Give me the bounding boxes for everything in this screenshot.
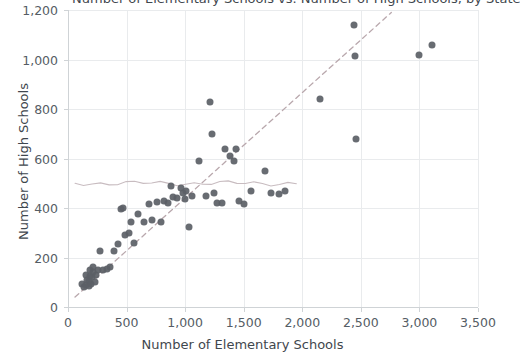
- gridline-vertical: [361, 10, 362, 307]
- data-point: [209, 130, 216, 137]
- data-point: [196, 158, 203, 165]
- data-point: [182, 196, 189, 203]
- x-tick-mark: [361, 308, 362, 312]
- gridline-horizontal: [68, 109, 478, 110]
- y-tick-mark: [64, 208, 68, 209]
- x-tick-mark: [185, 308, 186, 312]
- data-point: [185, 223, 192, 230]
- x-tick-mark: [478, 308, 479, 312]
- y-tick-label: 1,200: [0, 3, 58, 18]
- y-axis-line: [68, 10, 69, 307]
- y-tick-mark: [64, 159, 68, 160]
- y-tick-mark: [64, 258, 68, 259]
- data-point: [240, 201, 247, 208]
- chart-title: Number of Elementary Schools vs. Number …: [72, 0, 520, 6]
- data-point: [222, 145, 229, 152]
- x-tick-label: 0: [64, 315, 72, 330]
- data-point: [141, 218, 148, 225]
- data-point: [247, 187, 254, 194]
- data-point: [281, 187, 288, 194]
- x-tick-mark: [302, 308, 303, 312]
- y-tick-mark: [64, 109, 68, 110]
- y-tick-mark: [64, 10, 68, 11]
- data-point: [120, 205, 127, 212]
- data-point: [231, 158, 238, 165]
- y-tick-label: 200: [0, 250, 58, 265]
- y-tick-label: 1,000: [0, 52, 58, 67]
- x-tick-label: 2,500: [343, 315, 379, 330]
- gridline-horizontal: [68, 159, 478, 160]
- x-tick-label: 2,000: [284, 315, 320, 330]
- y-tick-label: 0: [0, 300, 58, 315]
- data-point: [96, 248, 103, 255]
- data-point: [416, 51, 423, 58]
- x-tick-label: 1,000: [167, 315, 203, 330]
- data-point: [211, 190, 218, 197]
- data-point: [135, 211, 142, 218]
- data-point: [261, 167, 268, 174]
- x-tick-label: 1,500: [226, 315, 262, 330]
- data-point: [145, 201, 152, 208]
- data-point: [316, 96, 323, 103]
- x-axis-title: Number of Elementary Schools: [0, 337, 485, 352]
- data-point: [91, 279, 98, 286]
- data-point: [130, 239, 137, 246]
- data-point: [206, 98, 213, 105]
- data-point: [168, 182, 175, 189]
- gridline-vertical: [478, 10, 479, 307]
- x-tick-label: 3,000: [402, 315, 438, 330]
- gridline-horizontal: [68, 208, 478, 209]
- gridline-horizontal: [68, 60, 478, 61]
- data-point: [267, 190, 274, 197]
- data-point: [218, 200, 225, 207]
- x-tick-mark: [419, 308, 420, 312]
- data-point: [353, 135, 360, 142]
- y-tick-mark: [64, 60, 68, 61]
- x-tick-mark: [68, 308, 69, 312]
- data-point: [429, 41, 436, 48]
- data-point: [115, 240, 122, 247]
- gridline-horizontal: [68, 258, 478, 259]
- data-point: [350, 21, 357, 28]
- y-axis-title: Number of High Schools: [16, 83, 31, 240]
- gridline-vertical: [302, 10, 303, 307]
- x-tick-mark: [244, 308, 245, 312]
- data-point: [157, 218, 164, 225]
- x-tick-label: 500: [115, 315, 139, 330]
- data-point: [164, 200, 171, 207]
- data-point: [149, 217, 156, 224]
- x-tick-mark: [127, 308, 128, 312]
- gridline-vertical: [185, 10, 186, 307]
- data-point: [352, 52, 359, 59]
- data-point: [107, 264, 114, 271]
- data-point: [128, 218, 135, 225]
- data-point: [189, 192, 196, 199]
- gridline-vertical: [127, 10, 128, 307]
- data-point: [154, 198, 161, 205]
- data-point: [232, 145, 239, 152]
- x-tick-label: 3,500: [460, 315, 496, 330]
- data-point: [173, 195, 180, 202]
- gridline-vertical: [244, 10, 245, 307]
- x-axis-line: [68, 307, 478, 308]
- data-point: [203, 192, 210, 199]
- data-point: [125, 229, 132, 236]
- data-point: [110, 248, 117, 255]
- gridline-horizontal: [68, 10, 478, 11]
